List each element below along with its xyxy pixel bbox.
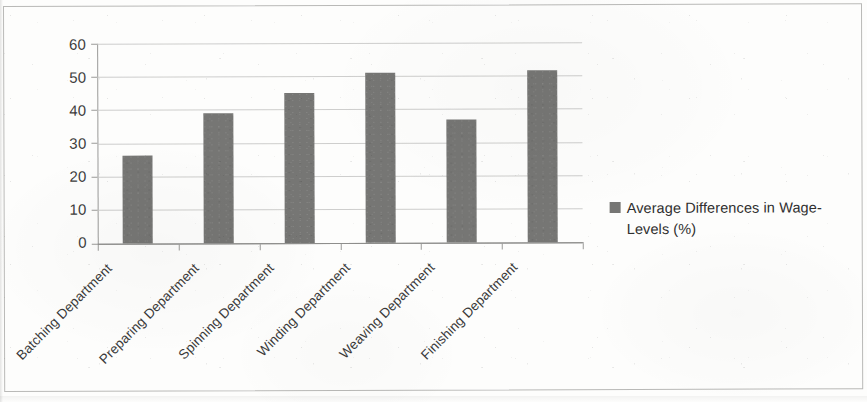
x-axis-tick-mark-2 bbox=[260, 244, 261, 250]
y-axis-tick-label-10: 10 bbox=[47, 202, 87, 217]
x-axis-tick-mark-1 bbox=[179, 244, 180, 250]
bar-weaving-department[interactable] bbox=[446, 119, 476, 242]
gridline-30 bbox=[97, 142, 582, 145]
bar-finishing-department[interactable] bbox=[527, 71, 558, 243]
scan-bottom-band bbox=[0, 396, 867, 402]
x-axis-tick-mark-4 bbox=[421, 244, 422, 250]
bar-winding-department[interactable] bbox=[365, 73, 396, 243]
y-axis-tick-label-0: 0 bbox=[47, 235, 87, 250]
bar-batching-department[interactable] bbox=[122, 155, 152, 243]
x-axis-tick-mark-0 bbox=[98, 245, 99, 251]
gridline-20 bbox=[98, 175, 583, 178]
bar-spinning-department[interactable] bbox=[284, 93, 314, 243]
legend-swatch-icon bbox=[610, 202, 621, 213]
x-axis-label-finishing-department: Finishing Department bbox=[418, 260, 520, 363]
chart-frame: 60 50 40 30 20 10 0 bbox=[3, 3, 863, 392]
x-axis-tick-mark-5 bbox=[502, 243, 503, 249]
plot-area bbox=[97, 42, 583, 244]
gridline-40 bbox=[97, 108, 582, 111]
chart-legend: Average Differences in Wage-Levels (%) bbox=[610, 197, 860, 240]
scanned-chart-page: 60 50 40 30 20 10 0 bbox=[0, 0, 867, 402]
y-axis-tick-label-50: 50 bbox=[46, 70, 86, 85]
legend-entry-label: Average Differences in Wage-Levels (%) bbox=[627, 197, 842, 240]
y-axis-tick-label-60: 60 bbox=[46, 37, 86, 52]
y-axis-tick-label-40: 40 bbox=[46, 103, 86, 118]
y-axis-tick-label-20: 20 bbox=[47, 169, 87, 184]
y-axis-labels: 60 50 40 30 20 10 0 bbox=[42, 7, 87, 307]
gridline-50 bbox=[97, 75, 582, 78]
bar-preparing-department[interactable] bbox=[203, 113, 233, 243]
gridline-60 bbox=[97, 42, 582, 45]
y-axis-tick-label-30: 30 bbox=[46, 136, 86, 151]
x-axis-tick-mark-6 bbox=[583, 243, 584, 249]
gridline-10 bbox=[98, 208, 583, 211]
x-axis-tick-mark-3 bbox=[341, 244, 342, 250]
